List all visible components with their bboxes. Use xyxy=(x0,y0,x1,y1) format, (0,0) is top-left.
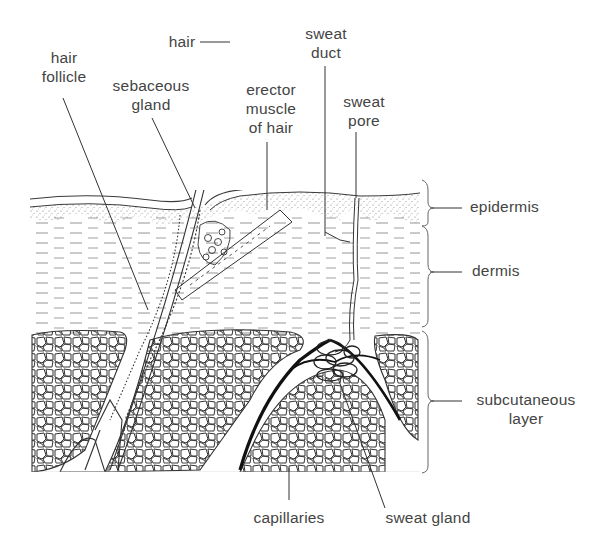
label-dermis: dermis xyxy=(472,261,520,280)
bracket-dermis xyxy=(422,226,434,327)
label-sebaceous-gland: sebaceous gland xyxy=(104,76,198,114)
label-sweat-pore: sweat pore xyxy=(336,92,392,130)
label-sweat-gland: sweat gland xyxy=(380,508,476,527)
skin-surface-outer xyxy=(30,196,192,202)
label-sweat-duct: sweat duct xyxy=(298,24,354,62)
layer-brackets xyxy=(422,180,434,473)
label-epidermis: epidermis xyxy=(470,197,539,216)
bracket-subcutaneous xyxy=(422,331,434,473)
fat-lobules xyxy=(30,330,420,472)
bracket-epidermis xyxy=(422,180,434,226)
label-erector-muscle: erector muscle of hair xyxy=(238,80,304,137)
leader-sebaceous-gland xyxy=(152,118,195,208)
label-capillaries: capillaries xyxy=(246,508,332,527)
label-hair-follicle: hair follicle xyxy=(34,48,94,86)
label-subcutaneous-layer: subcutaneous layer xyxy=(468,390,584,428)
label-hair: hair xyxy=(163,32,201,51)
